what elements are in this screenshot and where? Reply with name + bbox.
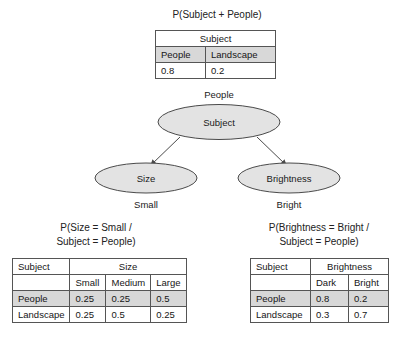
table-row-values: 0.8 0.2 xyxy=(156,63,276,79)
edge-subject-to-brightness xyxy=(257,137,286,165)
bl-row-1-value-2: 0.25 xyxy=(151,307,186,323)
br-row-0-value-0: 0.8 xyxy=(311,291,349,307)
bayesian-network-diagram: People Subject Size Small Brightness Bri… xyxy=(0,85,406,215)
table-row-columns: People Landscape xyxy=(156,47,276,63)
node-subject-label: Subject xyxy=(203,117,235,128)
bl-row-0-value-1: 0.25 xyxy=(106,291,151,307)
node-brightness-state-label: Bright xyxy=(277,199,302,210)
node-size-label: Size xyxy=(137,173,155,184)
table-row: People 0.8 0.2 xyxy=(251,291,389,307)
bottom-left-caption-line1: P(Size = Small / xyxy=(16,221,176,235)
bottom-left-table-wrap: Subject Size Small Medium Large People 0… xyxy=(12,258,187,323)
top-table-col-0: People xyxy=(156,47,206,63)
br-row-1-label: Landscape xyxy=(251,307,311,323)
root-state-label: People xyxy=(204,89,234,100)
table-row-header-group: Subject Size xyxy=(13,259,187,275)
br-row-0-value-1: 0.2 xyxy=(349,291,389,307)
br-row-1-value-0: 0.3 xyxy=(311,307,349,323)
bl-blank-cell xyxy=(13,275,70,291)
br-row-0-label: People xyxy=(251,291,311,307)
top-probability-table-wrap: Subject People Landscape 0.8 0.2 xyxy=(155,30,276,79)
top-table-col-1: Landscape xyxy=(206,47,276,63)
br-corner-header: Subject xyxy=(251,259,311,275)
top-table-title: P(Subject + People) xyxy=(117,8,317,21)
br-subheader-0: Dark xyxy=(311,275,349,291)
bottom-right-table-wrap: Subject Brightness Dark Bright People 0.… xyxy=(250,258,389,323)
edge-subject-to-size xyxy=(151,137,180,165)
br-row-1-value-1: 0.7 xyxy=(349,307,389,323)
br-subheader-1: Bright xyxy=(349,275,389,291)
table-row: Landscape 0.25 0.5 0.25 xyxy=(13,307,187,323)
bl-corner-header: Subject xyxy=(13,259,70,275)
bottom-right-caption: P(Brightness = Bright / Subject = People… xyxy=(249,221,389,249)
table-row: Landscape 0.3 0.7 xyxy=(251,307,389,323)
top-table-value-1: 0.2 xyxy=(206,63,276,79)
table-row-header-group: Subject xyxy=(156,31,276,47)
bl-subheader-0: Small xyxy=(70,275,106,291)
node-size-state-label: Small xyxy=(134,199,158,210)
bl-group-header: Size xyxy=(70,259,186,275)
node-brightness-label: Brightness xyxy=(267,173,312,184)
bl-row-0-label: People xyxy=(13,291,70,307)
bl-row-0-value-2: 0.5 xyxy=(151,291,186,307)
brightness-cpt-table: Subject Brightness Dark Bright People 0.… xyxy=(250,258,389,323)
bl-subheader-1: Medium xyxy=(106,275,151,291)
bottom-right-caption-line1: P(Brightness = Bright / xyxy=(249,221,389,235)
bottom-left-caption-line2: Subject = People) xyxy=(16,235,176,249)
bottom-left-caption: P(Size = Small / Subject = People) xyxy=(16,221,176,249)
top-table-group-header: Subject xyxy=(156,31,276,47)
bl-row-1-value-0: 0.25 xyxy=(70,307,106,323)
bl-row-0-value-0: 0.25 xyxy=(70,291,106,307)
br-group-header: Brightness xyxy=(311,259,389,275)
bl-subheader-2: Large xyxy=(151,275,186,291)
table-row-subheaders: Dark Bright xyxy=(251,275,389,291)
bl-row-1-value-1: 0.5 xyxy=(106,307,151,323)
table-row-header-group: Subject Brightness xyxy=(251,259,389,275)
bl-row-1-label: Landscape xyxy=(13,307,70,323)
top-probability-table: Subject People Landscape 0.8 0.2 xyxy=(155,30,276,79)
br-blank-cell xyxy=(251,275,311,291)
size-cpt-table: Subject Size Small Medium Large People 0… xyxy=(12,258,187,323)
top-table-value-0: 0.8 xyxy=(156,63,206,79)
table-row: People 0.25 0.25 0.5 xyxy=(13,291,187,307)
table-row-subheaders: Small Medium Large xyxy=(13,275,187,291)
bottom-right-caption-line2: Subject = People) xyxy=(249,235,389,249)
